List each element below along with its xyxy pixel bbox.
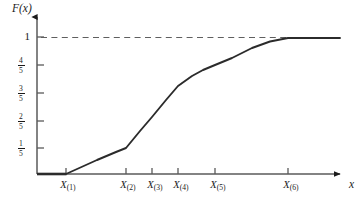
- plot-canvas: [0, 0, 362, 206]
- fraction-3-5: 3 5: [12, 85, 30, 103]
- x-tick-label-subscript: (2): [127, 183, 136, 192]
- x-tick-label-subscript: (4): [180, 183, 189, 192]
- x-tick-label-X5: X(5): [210, 180, 225, 192]
- x-tick-label-subscript: (5): [217, 183, 226, 192]
- cdf-curve: [66, 38, 340, 174]
- fraction-numerator: 3: [12, 85, 30, 93]
- fraction-numerator: 2: [12, 113, 30, 121]
- empirical-cdf-figure: F(x) x 1 4 5 3 5 2 5 1 5: [0, 0, 362, 206]
- y-tick-label-1: 1: [12, 31, 30, 42]
- fraction-denominator: 5: [12, 95, 30, 103]
- fraction-2-5: 2 5: [12, 113, 30, 131]
- fraction-4-5: 4 5: [12, 57, 30, 75]
- fraction-denominator: 5: [12, 150, 30, 158]
- fraction-denominator: 5: [12, 67, 30, 75]
- fraction-denominator: 5: [12, 123, 30, 131]
- x-axis-title: x: [349, 179, 354, 191]
- y-tick-label-1-5: 1 5: [12, 140, 30, 159]
- x-axis-ticks: [66, 168, 288, 174]
- x-tick-label-X6: X(6): [283, 180, 298, 192]
- y-axis-title: F(x): [12, 3, 32, 15]
- y-axis-ticks: [37, 37, 44, 148]
- fraction-1-5: 1 5: [12, 140, 30, 158]
- x-tick-label-X1: X(1): [60, 180, 75, 192]
- fraction-numerator: 1: [12, 140, 30, 148]
- y-tick-label-4-5: 4 5: [12, 57, 30, 76]
- x-tick-label-subscript: (6): [290, 183, 299, 192]
- x-tick-label-X4: X(4): [173, 180, 188, 192]
- y-tick-label-1-text: 1: [25, 30, 31, 42]
- y-tick-label-3-5: 3 5: [12, 85, 30, 104]
- y-tick-label-2-5: 2 5: [12, 113, 30, 132]
- x-tick-label-subscript: (1): [67, 183, 76, 192]
- x-tick-label-X3: X(3): [147, 180, 162, 192]
- fraction-numerator: 4: [12, 57, 30, 65]
- x-tick-label-X2: X(2): [120, 180, 135, 192]
- x-tick-label-subscript: (3): [154, 183, 163, 192]
